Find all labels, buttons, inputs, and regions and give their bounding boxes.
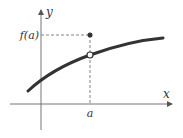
- limit-diagram: y x f(a) a: [0, 0, 183, 138]
- function-curve: [28, 38, 163, 91]
- open-circle-hole: [87, 52, 93, 58]
- y-axis-label: y: [45, 5, 53, 19]
- x-axis-label: x: [163, 87, 170, 101]
- a-label: a: [87, 107, 94, 120]
- f-of-a-label: f(a): [19, 29, 39, 42]
- filled-point-f-of-a: [88, 33, 93, 38]
